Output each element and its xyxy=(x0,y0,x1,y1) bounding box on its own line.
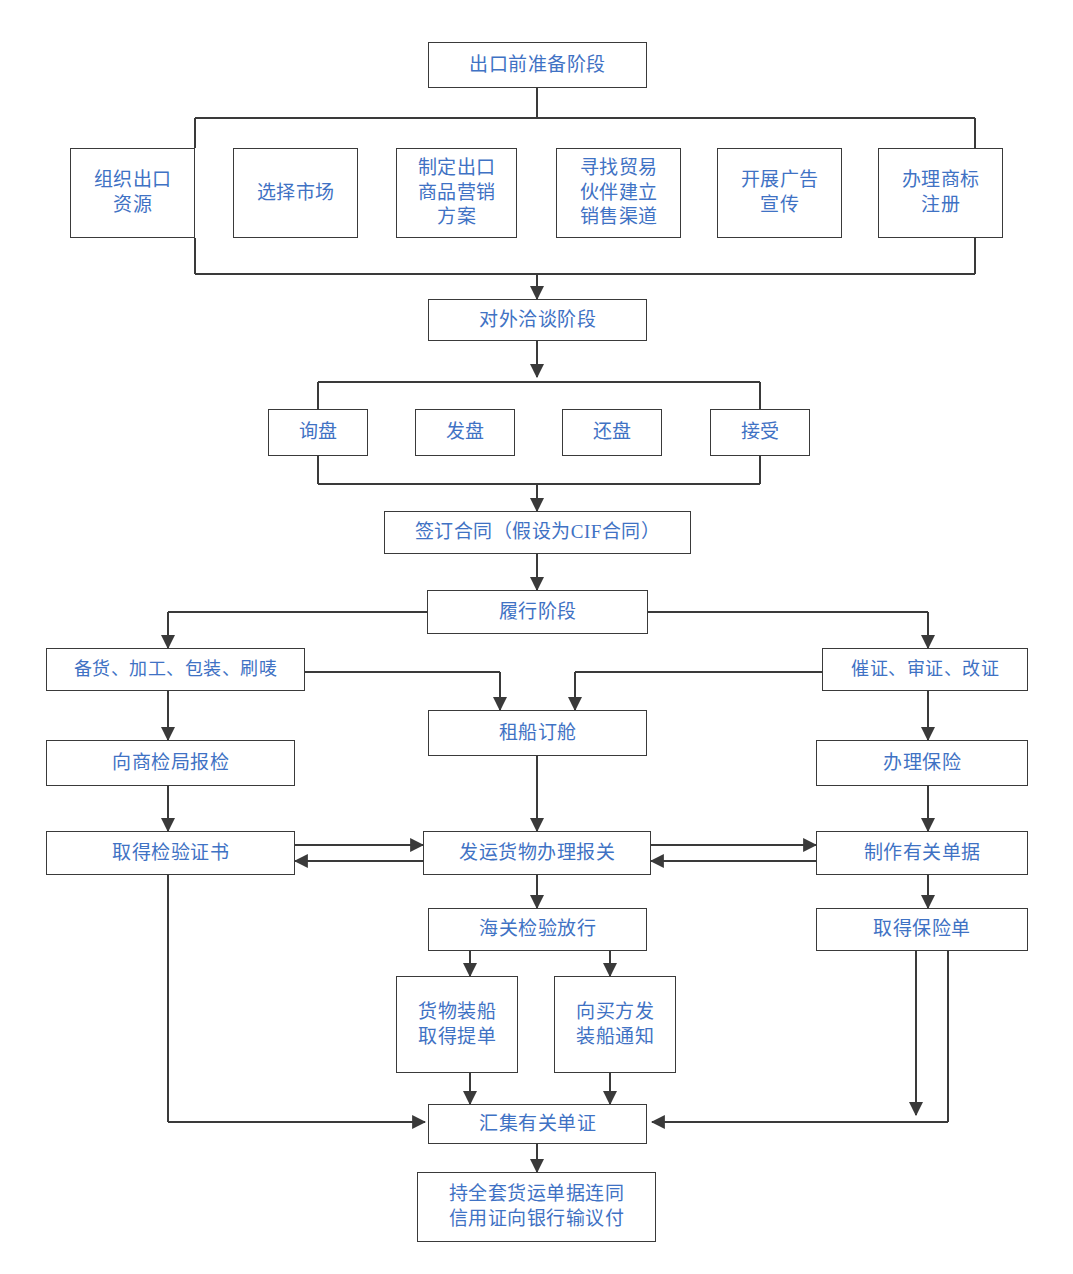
flowchart-canvas: 出口前准备阶段 组织出口 资源 选择市场 制定出口 商品营销 方案 寻找贸易 伙… xyxy=(0,0,1073,1274)
node-performance-stage[interactable]: 履行阶段 xyxy=(427,590,648,634)
node-export-marketing-plan[interactable]: 制定出口 商品营销 方案 xyxy=(396,148,517,238)
node-offer[interactable]: 发盘 xyxy=(415,409,515,456)
node-obtain-insurance-policy[interactable]: 取得保险单 xyxy=(816,908,1028,951)
node-negotiation-stage[interactable]: 对外洽谈阶段 xyxy=(428,299,647,341)
node-counter-offer[interactable]: 还盘 xyxy=(562,409,662,456)
node-advertising-promotion[interactable]: 开展广告 宣传 xyxy=(717,148,842,238)
node-load-goods-obtain-bill-of-lading[interactable]: 货物装船 取得提单 xyxy=(396,976,518,1073)
node-urge-examine-amend-lc[interactable]: 催证、审证、改证 xyxy=(822,648,1028,691)
node-inquiry[interactable]: 询盘 xyxy=(268,409,368,456)
node-pre-export-stage[interactable]: 出口前准备阶段 xyxy=(428,42,647,88)
node-collect-related-documents[interactable]: 汇集有关单证 xyxy=(428,1104,647,1144)
node-select-market[interactable]: 选择市场 xyxy=(233,148,358,238)
node-trademark-registration[interactable]: 办理商标 注册 xyxy=(878,148,1003,238)
node-acceptance[interactable]: 接受 xyxy=(710,409,810,456)
node-obtain-inspection-certificate[interactable]: 取得检验证书 xyxy=(46,831,295,875)
node-organize-export-resources[interactable]: 组织出口 资源 xyxy=(70,148,195,238)
node-send-shipping-advice-to-buyer[interactable]: 向买方发 装船通知 xyxy=(554,976,676,1073)
node-prepare-related-documents[interactable]: 制作有关单据 xyxy=(816,831,1028,875)
node-find-trade-partners[interactable]: 寻找贸易 伙伴建立 销售渠道 xyxy=(556,148,681,238)
node-bank-negotiation[interactable]: 持全套货运单据连同 信用证向银行输议付 xyxy=(417,1172,656,1242)
node-sign-contract[interactable]: 签订合同（假设为CIF合同） xyxy=(384,511,691,554)
node-apply-commodity-inspection[interactable]: 向商检局报检 xyxy=(46,740,295,786)
node-customs-inspection-release[interactable]: 海关检验放行 xyxy=(428,908,647,951)
node-charter-booking[interactable]: 租船订舱 xyxy=(428,710,647,756)
node-prepare-process-pack-mark[interactable]: 备货、加工、包装、刷唛 xyxy=(46,648,305,691)
node-ship-goods-customs-declaration[interactable]: 发运货物办理报关 xyxy=(423,831,651,875)
node-arrange-insurance[interactable]: 办理保险 xyxy=(816,740,1028,786)
